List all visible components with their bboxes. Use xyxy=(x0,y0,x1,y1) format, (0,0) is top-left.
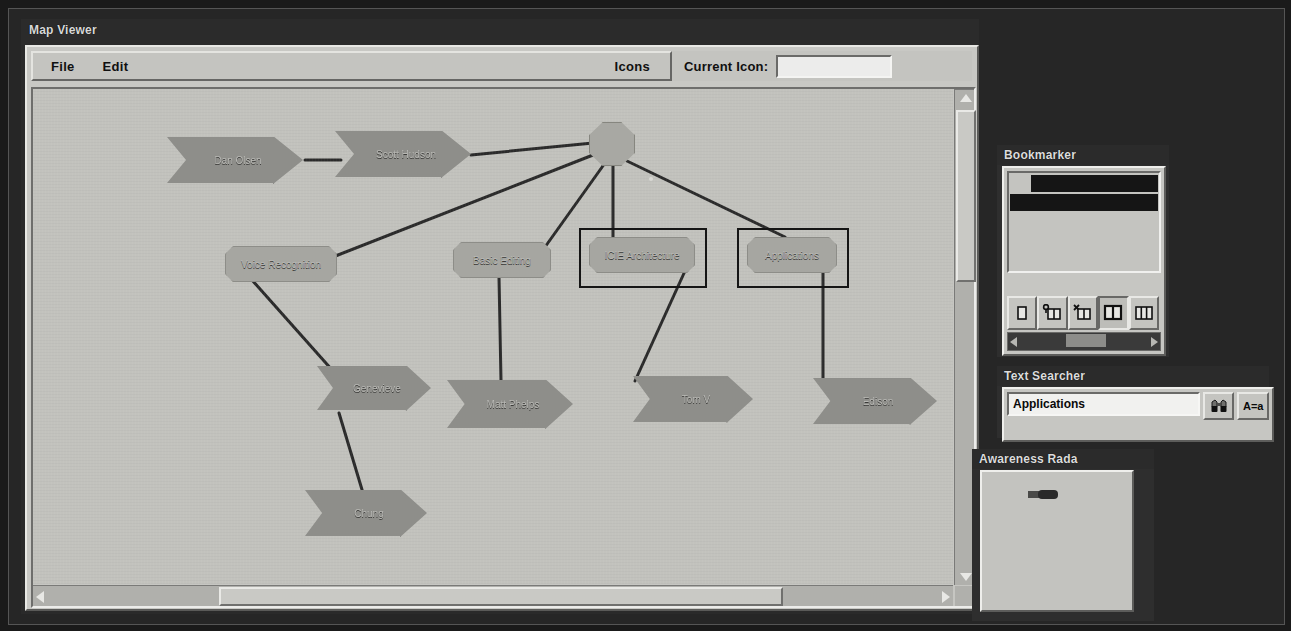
menu-bar: File Edit Icons Current Icon: xyxy=(31,51,972,81)
remove-pane-icon[interactable] xyxy=(1068,296,1098,330)
map-node-label: Genevieve xyxy=(347,383,401,394)
map-node-label: Scott Hudson xyxy=(370,149,436,160)
case-sensitive-button[interactable]: A=a xyxy=(1237,392,1269,420)
map-node-label: Applications xyxy=(765,250,819,261)
awareness-radar-view[interactable] xyxy=(980,470,1134,612)
radar-blip xyxy=(1038,490,1058,499)
bookmarker-title: Bookmarker xyxy=(997,145,1169,165)
window-title: Map Viewer xyxy=(21,19,979,45)
remove-pane-glyph xyxy=(1072,304,1094,322)
map-node-genevieve[interactable]: Genevieve xyxy=(317,366,431,410)
current-icon-area: Current Icon: xyxy=(672,51,972,81)
scroll-down-arrow-icon[interactable] xyxy=(960,573,972,581)
map-canvas[interactable]: Dan OlsenScott HudsonVoice RecognitionBa… xyxy=(33,89,953,584)
map-viewer-window: Map Viewer File Edit Icons Current Icon: xyxy=(21,19,979,614)
map-node-label: Basic Editing xyxy=(473,255,531,266)
split-pane-glyph xyxy=(1103,304,1123,322)
menu-file[interactable]: File xyxy=(41,56,85,77)
canvas-horizontal-scrollbar[interactable] xyxy=(33,585,953,606)
menu-bar-left: File Edit Icons xyxy=(31,51,672,81)
bookmarker-scroll-left-arrow-icon[interactable] xyxy=(1010,337,1017,347)
search-input[interactable]: Applications xyxy=(1007,392,1200,416)
add-pane-glyph xyxy=(1042,304,1064,322)
current-icon-input[interactable] xyxy=(776,55,892,78)
map-node-tom-v[interactable]: Tom V xyxy=(633,376,753,422)
map-node-label: Tom V xyxy=(676,394,710,405)
menu-edit[interactable]: Edit xyxy=(93,56,139,77)
map-node-icie-architecture[interactable]: ICIE Architecture xyxy=(589,237,695,273)
three-pane-glyph xyxy=(1134,304,1154,322)
bookmarker-toolbar xyxy=(1007,296,1159,326)
list-item[interactable] xyxy=(1031,175,1158,192)
desktop-background: Map Viewer File Edit Icons Current Icon: xyxy=(0,0,1291,631)
map-node-chung[interactable]: Chung xyxy=(305,490,427,536)
map-node-scott-hudson[interactable]: Scott Hudson xyxy=(335,131,471,177)
scroll-right-arrow-icon[interactable] xyxy=(942,591,950,603)
map-node-label: Matt Phelps xyxy=(481,399,540,410)
canvas-marker-dot xyxy=(649,177,653,181)
map-node-label: Dan Olsen xyxy=(208,155,261,166)
scroll-left-arrow-icon[interactable] xyxy=(36,591,44,603)
bookmarker-horizontal-scrollbar[interactable] xyxy=(1007,332,1161,351)
awareness-radar-title: Awareness Rada xyxy=(972,449,1154,469)
text-searcher-panel: Text Searcher Applications A=a xyxy=(997,366,1269,438)
map-node-applications[interactable]: Applications xyxy=(747,237,837,273)
list-item[interactable] xyxy=(1010,194,1158,211)
map-node-matt-phelps[interactable]: Matt Phelps xyxy=(447,380,573,428)
add-pane-icon[interactable] xyxy=(1037,296,1067,330)
map-node-label: Voice Recognition xyxy=(241,259,321,270)
desktop-inner: Map Viewer File Edit Icons Current Icon: xyxy=(8,8,1285,625)
map-viewer-frame: File Edit Icons Current Icon: xyxy=(25,45,979,611)
current-icon-label: Current Icon: xyxy=(684,59,768,74)
bookmarker-body xyxy=(1002,166,1166,356)
bookmarker-scroll-right-arrow-icon[interactable] xyxy=(1151,337,1158,347)
bookmarker-scroll-thumb[interactable] xyxy=(1066,334,1106,347)
split-pane-icon[interactable] xyxy=(1098,296,1128,330)
canvas-vertical-scrollbar[interactable] xyxy=(954,89,974,585)
map-node-label: Chung xyxy=(348,508,383,519)
map-edges xyxy=(33,89,953,584)
awareness-radar-panel: Awareness Rada xyxy=(972,449,1154,621)
bookmarker-panel: Bookmarker xyxy=(997,145,1169,357)
find-button[interactable] xyxy=(1203,392,1235,420)
map-node-basic-editing[interactable]: Basic Editing xyxy=(453,242,551,278)
canvas-horizontal-scroll-thumb[interactable] xyxy=(219,587,783,606)
bookmarker-list[interactable] xyxy=(1007,171,1161,273)
text-searcher-title: Text Searcher xyxy=(997,366,1269,386)
single-pane-glyph xyxy=(1013,304,1031,322)
map-node-label: Edison xyxy=(857,396,894,407)
map-canvas-container: Dan OlsenScott HudsonVoice RecognitionBa… xyxy=(31,87,976,608)
map-node-dan-olsen[interactable]: Dan Olsen xyxy=(167,137,303,183)
menu-icons[interactable]: Icons xyxy=(609,56,656,77)
map-node-hub[interactable] xyxy=(589,122,635,166)
text-searcher-body: Applications A=a xyxy=(1002,387,1274,442)
binoculars-icon xyxy=(1209,398,1229,414)
scroll-up-arrow-icon[interactable] xyxy=(960,94,972,102)
map-node-edison[interactable]: Edison xyxy=(813,378,937,424)
map-node-label: ICIE Architecture xyxy=(604,250,679,261)
three-pane-icon[interactable] xyxy=(1129,296,1159,330)
single-pane-icon[interactable] xyxy=(1007,296,1037,330)
map-node-voice-recognition[interactable]: Voice Recognition xyxy=(225,246,337,282)
canvas-vertical-scroll-thumb[interactable] xyxy=(956,110,976,282)
